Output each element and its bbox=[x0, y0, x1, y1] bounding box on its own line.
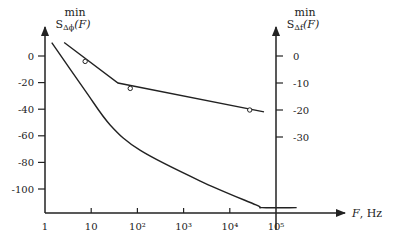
x-tick-label: 10⁴ bbox=[221, 221, 238, 232]
left-tick-label: -100 bbox=[12, 184, 34, 195]
right-tick-label: 0 bbox=[293, 51, 299, 62]
right-tick-label: -10 bbox=[293, 78, 309, 89]
data-point-marker bbox=[248, 108, 252, 112]
data-point-marker bbox=[128, 86, 132, 90]
chart: 11010²10³10⁴10⁵0-20-40-60-80-1000-10-20-… bbox=[0, 0, 409, 238]
x-tick-label: 10 bbox=[85, 221, 98, 232]
left-tick-label: -60 bbox=[18, 130, 34, 141]
left-tick-label: -80 bbox=[18, 157, 34, 168]
left-tick-label: -40 bbox=[18, 104, 34, 115]
left-axis-title-label: SΔϕ(F) bbox=[56, 18, 91, 32]
x-axis-label: F, Hz bbox=[351, 207, 382, 220]
series-line bbox=[52, 43, 297, 208]
labels-layer: 11010²10³10⁴10⁵0-20-40-60-80-1000-10-20-… bbox=[12, 6, 383, 232]
series-layer bbox=[52, 43, 297, 208]
x-tick-label: 10² bbox=[129, 221, 146, 232]
x-tick-label: 10³ bbox=[175, 221, 192, 232]
data-point-marker bbox=[83, 59, 87, 63]
right-axis-title-label: SΔf(F) bbox=[287, 18, 320, 32]
left-tick-label: -20 bbox=[18, 77, 34, 88]
series-line bbox=[64, 43, 264, 112]
left-tick-label: 0 bbox=[28, 51, 34, 62]
x-tick-label: 10⁵ bbox=[268, 221, 285, 232]
x-tick-label: 1 bbox=[42, 221, 48, 232]
right-tick-label: -20 bbox=[293, 105, 309, 116]
right-tick-label: -30 bbox=[293, 132, 309, 143]
